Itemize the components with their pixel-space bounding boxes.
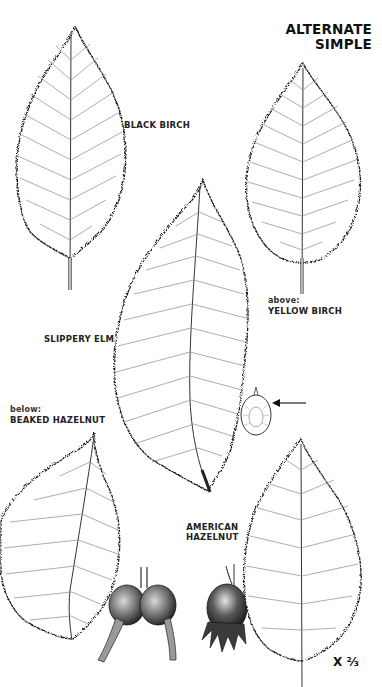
yellow-birch-leaf [246,62,360,294]
specimen-name: YELLOW BIRCH [268,306,342,316]
specimen-name: AMERICAN [186,522,239,532]
field-guide-page: ALTERNATE SIMPLE BLACK BIRCH above: YELL… [0,0,382,687]
page-heading: ALTERNATE SIMPLE [285,22,372,52]
scale-prefix: X [333,655,342,669]
elm-seed-samara [241,387,271,435]
beaked-hazelnut-leaf [0,432,119,640]
scale-fraction: ⅔ [346,655,358,669]
specimen-name: BEAKED HAZELNUT [10,415,105,425]
slippery-elm-leaf [114,178,247,492]
american-hazelnut-fruit [202,564,247,652]
specimen-position-note: below: [10,405,105,415]
label-beaked-hazelnut: below: BEAKED HAZELNUT [10,405,105,425]
label-black-birch: BLACK BIRCH [124,120,190,130]
heading-line-simple: SIMPLE [285,37,372,52]
american-hazelnut-leaf [244,438,361,687]
scale-note: X ⅔ [333,655,359,669]
specimen-position-note: above: [268,296,342,306]
arrow-icon [272,399,306,407]
label-yellow-birch: above: YELLOW BIRCH [268,296,342,316]
specimen-name: SLIPPERY ELM [44,334,114,344]
black-birch-leaf [16,26,125,290]
label-american-hazelnut: AMERICAN HAZELNUT [186,522,239,542]
specimen-name-line2: HAZELNUT [186,532,239,542]
specimen-name: BLACK BIRCH [124,120,190,130]
heading-line-alternate: ALTERNATE [285,22,372,37]
label-slippery-elm: SLIPPERY ELM [44,334,114,344]
